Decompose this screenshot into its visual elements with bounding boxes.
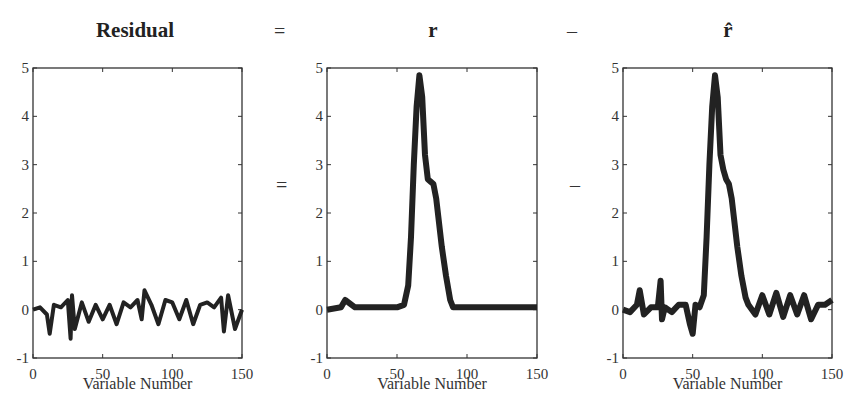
x-tick-label: 0 bbox=[619, 366, 627, 382]
y-tick-label: 1 bbox=[612, 253, 620, 269]
data-line bbox=[623, 75, 832, 334]
y-tick-label: 5 bbox=[22, 60, 30, 76]
y-tick-label: 4 bbox=[22, 108, 30, 124]
charts-canvas: -1012345050100150Variable Number-1012345… bbox=[0, 0, 864, 407]
y-tick-label: 4 bbox=[316, 108, 324, 124]
y-tick-label: -1 bbox=[17, 350, 30, 366]
y-tick-label: -1 bbox=[607, 350, 620, 366]
y-tick-label: -1 bbox=[311, 350, 324, 366]
x-tick-label: 150 bbox=[526, 366, 549, 382]
y-tick-label: 5 bbox=[612, 60, 620, 76]
y-tick-label: 1 bbox=[316, 253, 324, 269]
plot-frame bbox=[623, 68, 832, 358]
x-tick-label: 150 bbox=[821, 366, 844, 382]
y-tick-label: 3 bbox=[22, 157, 30, 173]
residual-plot: -1012345050100150Variable Number bbox=[17, 60, 254, 392]
y-tick-label: 4 bbox=[612, 108, 620, 124]
y-tick-label: 0 bbox=[612, 302, 620, 318]
r-plot: -1012345050100150Variable Number bbox=[311, 60, 549, 392]
x-tick-label: 0 bbox=[29, 366, 37, 382]
y-tick-label: 2 bbox=[22, 205, 30, 221]
y-tick-label: 0 bbox=[22, 302, 30, 318]
y-tick-label: 3 bbox=[612, 157, 620, 173]
x-axis-label: Variable Number bbox=[377, 375, 487, 392]
r-hat-plot: -1012345050100150Variable Number bbox=[607, 60, 844, 392]
data-line bbox=[327, 75, 537, 309]
plot-frame bbox=[327, 68, 537, 358]
y-tick-label: 0 bbox=[316, 302, 324, 318]
x-axis-label: Variable Number bbox=[673, 375, 783, 392]
y-tick-label: 5 bbox=[316, 60, 324, 76]
y-tick-label: 2 bbox=[612, 205, 620, 221]
data-line bbox=[33, 290, 242, 338]
plot-frame bbox=[33, 68, 242, 358]
x-tick-label: 150 bbox=[231, 366, 254, 382]
y-tick-label: 2 bbox=[316, 205, 324, 221]
y-tick-label: 1 bbox=[22, 253, 30, 269]
x-axis-label: Variable Number bbox=[83, 375, 193, 392]
x-tick-label: 0 bbox=[323, 366, 331, 382]
y-tick-label: 3 bbox=[316, 157, 324, 173]
